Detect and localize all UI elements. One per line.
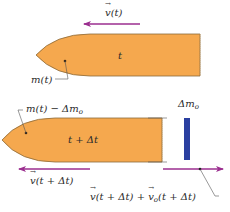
velocity-label-rocket: v(t + Δt) bbox=[30, 176, 73, 186]
ejected-mass-label: Δmo bbox=[178, 99, 199, 111]
ejected-velocity-leader bbox=[200, 169, 219, 196]
vector-v: v bbox=[105, 8, 111, 18]
velocity-arg-2: (t + Δt) bbox=[158, 191, 196, 202]
velocity-label-top: v(t) bbox=[105, 8, 122, 18]
ejected-mass-sub: o bbox=[195, 103, 199, 111]
time-label-bottom: t + Δt bbox=[68, 135, 98, 145]
velocity-arg: (t + Δt) + bbox=[96, 191, 149, 202]
mass-label-top: m(t) bbox=[31, 75, 52, 85]
vector-v-o: v bbox=[148, 192, 154, 202]
time-label-top: t bbox=[118, 51, 122, 61]
velocity-arg: (t) bbox=[111, 7, 123, 18]
mass-label-bottom-text: m(t) − Δm bbox=[26, 103, 79, 114]
vector-v: v bbox=[90, 192, 96, 202]
mass-label-bottom: m(t) − Δmo bbox=[26, 104, 83, 116]
ejected-mass-text: Δm bbox=[178, 98, 195, 109]
ejected-mass-bar bbox=[184, 118, 190, 160]
vector-v: v bbox=[30, 176, 36, 186]
velocity-arg: (t + Δt) bbox=[36, 175, 74, 186]
mass-sub: o bbox=[79, 108, 83, 116]
velocity-label-ejected: v(t + Δt) + vo(t + Δt) bbox=[90, 192, 196, 204]
